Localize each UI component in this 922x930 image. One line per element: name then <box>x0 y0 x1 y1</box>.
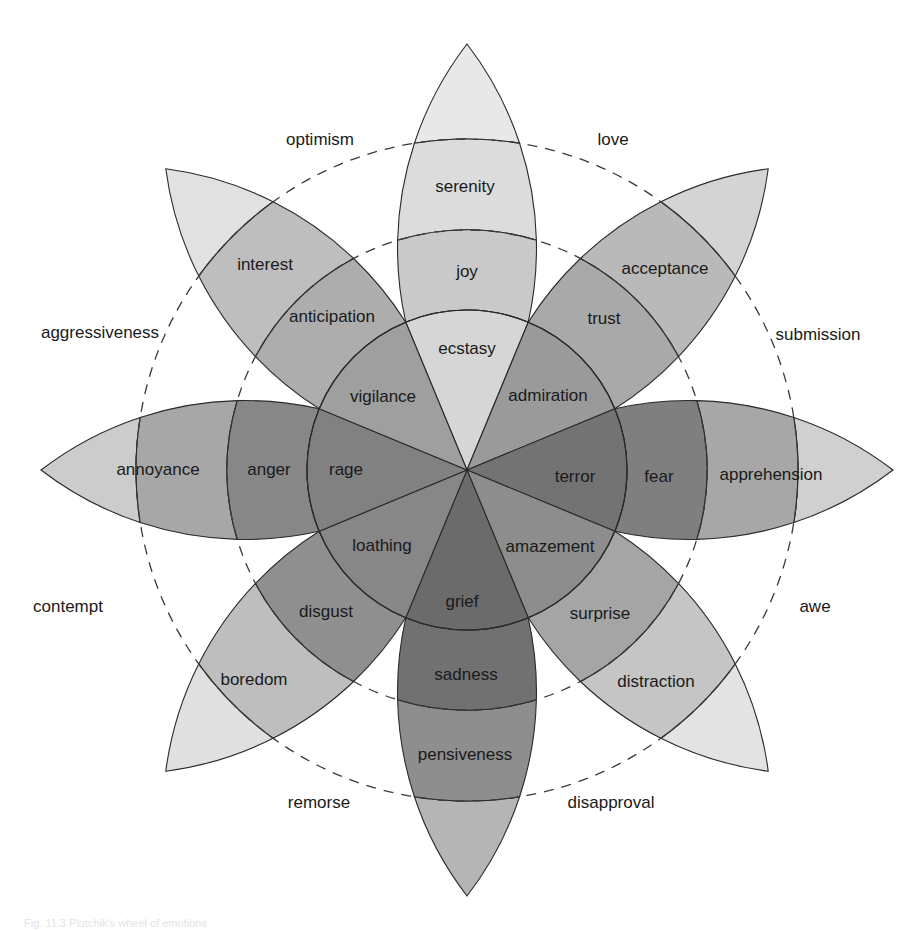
emotion-label-terror: terror <box>555 467 596 486</box>
dyad-label-remorse: remorse <box>288 793 350 812</box>
emotion-label-loathing: loathing <box>352 536 412 555</box>
dyad-label-submission: submission <box>775 325 860 344</box>
emotion-label-anticipation: anticipation <box>289 307 375 326</box>
emotion-label-acceptance: acceptance <box>622 259 709 278</box>
emotion-label-joy: joy <box>455 262 478 281</box>
dyad-label-optimism: optimism <box>286 130 354 149</box>
emotion-label-admiration: admiration <box>508 386 587 405</box>
emotion-label-trust: trust <box>587 309 620 328</box>
emotion-label-ecstasy: ecstasy <box>438 339 496 358</box>
emotion-label-rage: rage <box>329 460 363 479</box>
petal-tip <box>414 44 519 143</box>
emotion-label-anger: anger <box>247 460 291 479</box>
emotion-label-boredom: boredom <box>220 670 287 689</box>
emotion-label-distraction: distraction <box>617 672 694 691</box>
emotion-wheel-diagram: ecstasyjoyserenityadmirationtrustaccepta… <box>0 0 922 930</box>
emotion-label-vigilance: vigilance <box>350 387 416 406</box>
emotion-label-serenity: serenity <box>435 177 495 196</box>
petal-tip <box>414 797 519 896</box>
dyad-label-awe: awe <box>799 597 830 616</box>
emotion-label-disgust: disgust <box>299 602 353 621</box>
dyad-label-aggressiveness: aggressiveness <box>41 323 159 342</box>
emotion-label-amazement: amazement <box>506 537 595 556</box>
dyad-label-contempt: contempt <box>33 597 103 616</box>
emotion-label-apprehension: apprehension <box>719 465 822 484</box>
emotion-label-annoyance: annoyance <box>116 460 199 479</box>
figure-caption: Fig. 11.3 Plutchik's wheel of emotions <box>24 917 207 929</box>
emotion-label-interest: interest <box>237 255 293 274</box>
emotion-label-pensiveness: pensiveness <box>418 745 513 764</box>
dyad-label-disapproval: disapproval <box>568 793 655 812</box>
emotion-label-sadness: sadness <box>434 665 497 684</box>
emotion-label-grief: grief <box>445 592 478 611</box>
band-sadness <box>398 618 537 710</box>
emotion-label-surprise: surprise <box>570 604 630 623</box>
dyad-label-love: love <box>597 130 628 149</box>
emotion-label-fear: fear <box>644 467 674 486</box>
